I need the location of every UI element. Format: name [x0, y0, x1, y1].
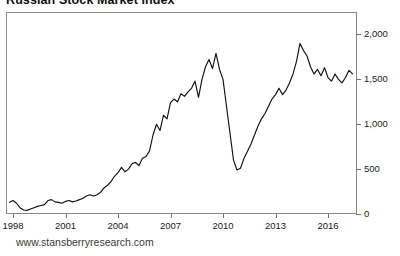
- y-axis-label: 1,000: [364, 119, 388, 128]
- y-axis-tick: [356, 79, 361, 80]
- x-axis-tick: [13, 214, 14, 218]
- x-axis-tick: [118, 214, 119, 218]
- y-axis-label: 0: [364, 209, 369, 218]
- x-axis-label: 2016: [317, 221, 338, 231]
- x-axis-tick: [276, 214, 277, 218]
- x-axis-tick: [223, 214, 224, 218]
- x-axis-label: 2001: [55, 221, 76, 231]
- source-url: www.stansberryresearch.com: [16, 236, 154, 248]
- y-axis-label: 2,000: [364, 29, 388, 38]
- x-axis-label: 2013: [265, 221, 286, 231]
- x-axis-label: 2010: [212, 221, 233, 231]
- y-axis-tick: [356, 124, 361, 125]
- x-axis-tick: [171, 214, 172, 218]
- y-axis-tick: [356, 34, 361, 35]
- y-axis-label: 500: [364, 164, 380, 173]
- x-axis-label: 2007: [160, 221, 181, 231]
- y-axis-tick: [356, 169, 361, 170]
- page-title: Russian Stock Market Index: [6, 0, 175, 6]
- x-axis-label: 2004: [107, 221, 128, 231]
- line-series-russian-stock-market-index: [6, 12, 356, 214]
- x-axis-tick: [66, 214, 67, 218]
- x-axis-tick: [328, 214, 329, 218]
- y-axis-tick: [356, 214, 361, 215]
- x-axis-label: 1998: [2, 221, 23, 231]
- y-axis-line: [356, 12, 357, 214]
- chart-container: Russian Stock Market Index 05001,0001,50…: [0, 0, 400, 256]
- y-axis-label: 1,500: [364, 74, 388, 83]
